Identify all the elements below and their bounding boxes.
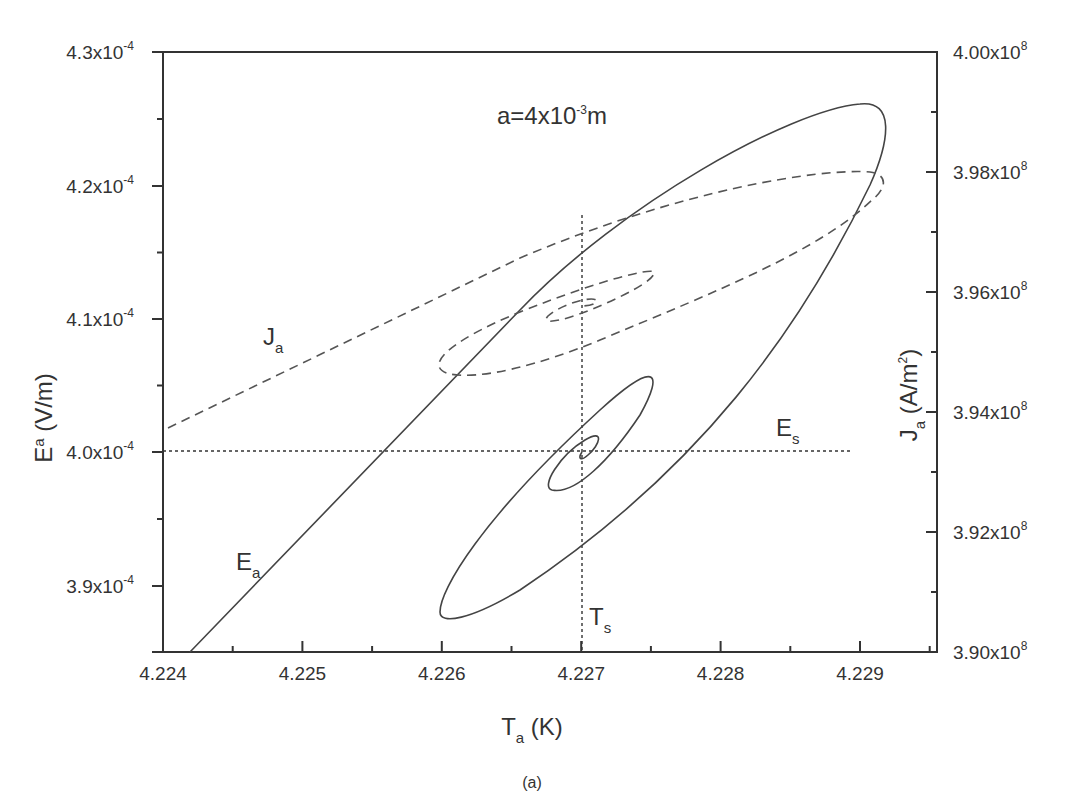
y-right-tick-label: 3.90x108 (953, 639, 1028, 663)
ja-curve (168, 172, 883, 428)
ea-curve-label: Ea (236, 548, 261, 581)
ja-curve-label: Ja (263, 323, 284, 356)
y-right-axis-title: Ja (A/m2) (895, 349, 928, 441)
y-right-tick-label: 3.92x108 (953, 519, 1028, 543)
x-tick-labels: 4.224 4.225 4.226 4.227 4.228 4.229 (139, 663, 884, 684)
x-tick-label: 4.225 (279, 663, 327, 684)
y-left-tick-labels: 4.3x10-4 4.2x10-4 4.1x10-4 4.0x10-4 3.9x… (66, 39, 134, 597)
es-label: Es (776, 414, 800, 447)
y-right-tick-label: 3.96x108 (953, 279, 1028, 303)
ea-curve (190, 104, 886, 652)
figure-caption: (a) (522, 774, 542, 791)
x-tick-label: 4.228 (697, 663, 745, 684)
y-left-tick-label: 3.9x10-4 (66, 573, 134, 597)
y-left-tick-label: 4.1x10-4 (66, 306, 134, 330)
y-left-tick-label: 4.3x10-4 (66, 39, 134, 63)
y-left-tick-label: 4.0x10-4 (66, 439, 134, 463)
chart: 4.224 4.225 4.226 4.227 4.228 4.229 4.3x… (0, 0, 1072, 809)
y-left-axis-ticks (152, 52, 163, 652)
y-right-tick-labels: 4.00x108 3.98x108 3.96x108 3.94x108 3.92… (953, 39, 1028, 663)
y-right-axis-ticks (926, 52, 937, 652)
parameter-annotation: a=4x10-3m (497, 102, 607, 129)
x-tick-label: 4.226 (418, 663, 466, 684)
ts-label: Ts (589, 603, 611, 636)
y-right-tick-label: 3.94x108 (953, 399, 1028, 423)
x-tick-label: 4.229 (836, 663, 884, 684)
x-axis-title: Ta (K) (501, 713, 563, 746)
y-right-tick-label: 3.98x108 (953, 159, 1028, 183)
x-tick-label: 4.224 (139, 663, 187, 684)
y-left-tick-label: 4.2x10-4 (66, 173, 134, 197)
y-right-tick-label: 4.00x108 (953, 39, 1028, 63)
y-left-axis-title: Ea (V/m) (30, 373, 57, 463)
x-tick-label: 4.227 (557, 663, 605, 684)
